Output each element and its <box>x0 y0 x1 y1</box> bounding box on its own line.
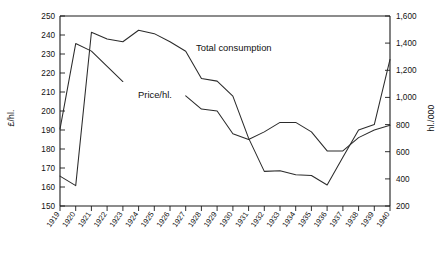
right-tick-400: 400 <box>396 175 410 184</box>
year-label-1929: 1929 <box>202 210 219 229</box>
left-tick-230: 230 <box>41 50 55 59</box>
year-label-1924: 1924 <box>123 210 140 229</box>
left-tick-210: 210 <box>41 88 55 97</box>
year-label-1927: 1927 <box>170 210 187 229</box>
left-tick-180: 180 <box>41 145 55 154</box>
year-label-1931: 1931 <box>233 210 250 229</box>
right-tick-1400: 1,400 <box>396 39 417 48</box>
series-line-total-consumption <box>60 30 390 185</box>
right-tick-1200: 1,200 <box>396 66 417 75</box>
right-tick-800: 800 <box>396 121 410 130</box>
year-label-1937: 1937 <box>327 210 344 229</box>
data-series-group <box>60 30 390 185</box>
right-axis-title: hl./000 <box>426 104 436 131</box>
year-label-1935: 1935 <box>296 210 313 229</box>
year-label-1925: 1925 <box>139 210 156 229</box>
series-annotation-total-consumption: Total consumption <box>196 42 272 53</box>
year-label-1933: 1933 <box>265 210 282 229</box>
left-tick-220: 220 <box>41 69 55 78</box>
year-label-1939: 1939 <box>359 210 376 229</box>
left-tick-240: 240 <box>41 31 55 40</box>
year-label-1926: 1926 <box>155 210 172 229</box>
year-label-1922: 1922 <box>92 210 109 229</box>
year-label-1923: 1923 <box>107 210 124 229</box>
series-annotation-price: Price/hl. <box>138 89 172 100</box>
right-tick-1600: 1,600 <box>396 12 417 21</box>
year-label-1940: 1940 <box>375 210 392 229</box>
left-tick-200: 200 <box>41 107 55 116</box>
right-tick-200: 200 <box>396 202 410 211</box>
year-label-1919: 1919 <box>45 210 62 229</box>
x-axis-year-labels: 1919 1920 1921 1922 1923 1924 1925 1926 … <box>45 210 392 229</box>
year-label-1928: 1928 <box>186 210 203 229</box>
right-tick-1000: 1,000 <box>396 93 417 102</box>
left-tick-250: 250 <box>41 12 55 21</box>
series-line-price-hl <box>60 44 123 130</box>
left-tick-190: 190 <box>41 126 55 135</box>
left-axis-ticks: 250 240 230 220 210 200 190 180 170 160 … <box>41 12 65 211</box>
chart-figure: 250 240 230 220 210 200 190 180 170 160 … <box>0 0 445 256</box>
year-label-1936: 1936 <box>312 210 329 229</box>
series-line-price-hl-continued <box>186 96 390 151</box>
year-label-1932: 1932 <box>249 210 266 229</box>
year-label-1938: 1938 <box>343 210 360 229</box>
left-tick-160: 160 <box>41 183 55 192</box>
year-label-1920: 1920 <box>60 210 77 229</box>
left-tick-170: 170 <box>41 164 55 173</box>
x-axis-ticks <box>60 206 390 211</box>
year-label-1921: 1921 <box>76 210 93 229</box>
left-axis-title: £/hl. <box>6 109 16 126</box>
year-label-1934: 1934 <box>280 210 297 229</box>
right-tick-600: 600 <box>396 148 410 157</box>
year-label-1930: 1930 <box>217 210 234 229</box>
